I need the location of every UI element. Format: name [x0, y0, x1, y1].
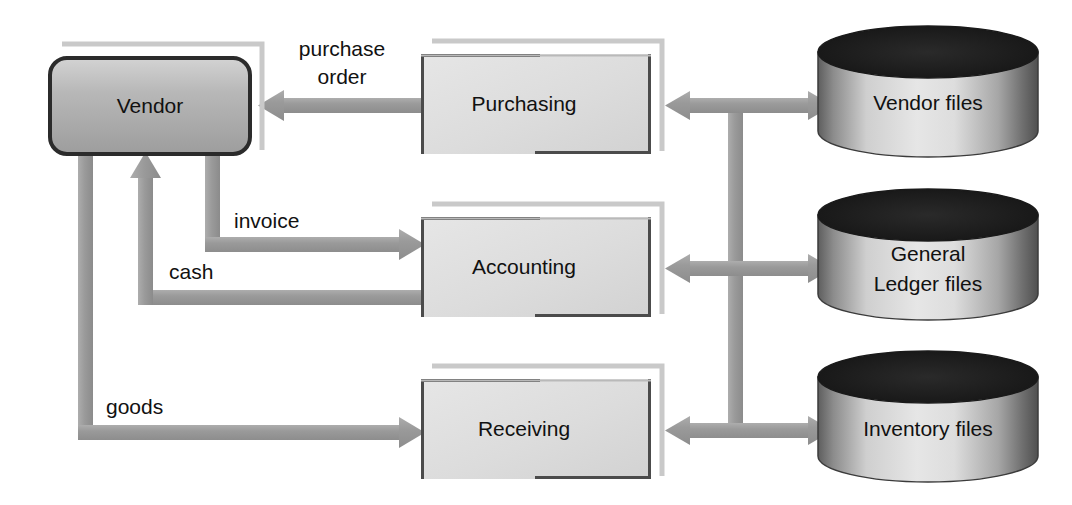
node-vendor-label: Vendor	[117, 94, 184, 117]
store-vendor-files-label: Vendor files	[873, 91, 983, 114]
flow-purchasing-vendor-files	[665, 91, 833, 120]
flow-purchase-order	[258, 90, 421, 121]
node-vendor[interactable]: Vendor	[50, 44, 262, 154]
store-gl-files-label-line1: General	[891, 242, 966, 265]
store-gl-files[interactable]: General Ledger files	[818, 189, 1038, 320]
node-accounting-label: Accounting	[472, 255, 576, 278]
flow-accounting-gl-files	[665, 254, 833, 283]
store-inventory-files[interactable]: Inventory files	[818, 351, 1038, 482]
store-vendor-files[interactable]: Vendor files	[818, 26, 1038, 157]
flow-invoice	[205, 152, 425, 260]
flow-invoice-label: invoice	[234, 209, 299, 232]
node-purchasing-label: Purchasing	[471, 92, 576, 115]
flow-purchase-order-label-line2: order	[317, 65, 366, 88]
node-receiving-label: Receiving	[478, 417, 570, 440]
flow-goods-label: goods	[106, 395, 163, 418]
flow-cash-label: cash	[169, 260, 213, 283]
node-purchasing[interactable]: Purchasing	[421, 41, 662, 154]
node-accounting[interactable]: Accounting	[421, 204, 662, 317]
dataflow-diagram: Vendor Purchasing Accounting	[0, 0, 1072, 505]
diagram-canvas: Vendor Purchasing Accounting	[0, 0, 1072, 505]
flow-purchase-order-label-line1: purchase	[299, 37, 385, 60]
store-inventory-files-label: Inventory files	[863, 417, 993, 440]
flow-receiving-inventory-files	[665, 416, 833, 445]
flow-purchase-order-label: purchase order	[299, 37, 385, 88]
node-receiving[interactable]: Receiving	[421, 366, 662, 479]
store-gl-files-label-line2: Ledger files	[874, 272, 983, 295]
